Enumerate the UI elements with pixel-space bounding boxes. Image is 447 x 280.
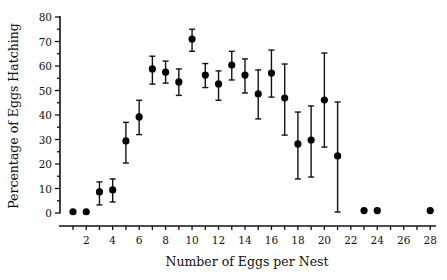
data-point xyxy=(321,96,328,103)
y-tick-label: 60 xyxy=(39,60,52,72)
x-tick-label: 2 xyxy=(83,234,90,246)
y-tick-label: 30 xyxy=(39,134,52,146)
y-tick-label: 0 xyxy=(45,207,52,219)
x-tick-label: 6 xyxy=(136,234,143,246)
y-tick-label: 20 xyxy=(39,158,52,170)
x-tick-label: 4 xyxy=(109,234,116,246)
data-point xyxy=(175,78,182,85)
data-point xyxy=(202,71,209,78)
chart: 01020304050607080 2468101214161820222426… xyxy=(0,0,447,280)
data-point xyxy=(374,207,381,214)
data-point xyxy=(215,80,222,87)
data-points xyxy=(69,35,433,215)
x-tick-label: 28 xyxy=(424,234,437,246)
data-point xyxy=(228,61,235,68)
data-point xyxy=(162,69,169,76)
data-point xyxy=(69,208,76,215)
axes xyxy=(59,16,436,226)
data-point xyxy=(83,208,90,215)
data-point xyxy=(136,113,143,120)
data-point xyxy=(255,90,262,97)
y-tick-label: 50 xyxy=(39,85,52,97)
x-axis-title: Number of Eggs per Nest xyxy=(166,254,329,269)
x-tick-label: 8 xyxy=(162,234,169,246)
y-tick-label: 40 xyxy=(39,109,52,121)
x-tick-label: 26 xyxy=(397,234,411,246)
x-tick-label: 10 xyxy=(185,234,198,246)
data-point xyxy=(308,136,315,143)
data-point xyxy=(109,186,116,193)
x-tick-label: 12 xyxy=(212,234,225,246)
x-ticks: 246810121416182022242628 xyxy=(73,226,437,246)
y-axis-title: Percentage of Eggs Hatching xyxy=(6,23,21,209)
y-tick-label: 80 xyxy=(39,11,52,23)
x-tick-label: 24 xyxy=(371,234,385,246)
x-tick-label: 20 xyxy=(318,234,331,246)
data-point xyxy=(294,140,301,147)
data-point xyxy=(281,94,288,101)
data-point xyxy=(96,188,103,195)
x-tick-label: 16 xyxy=(265,234,279,246)
y-tick-label: 10 xyxy=(39,183,52,195)
x-tick-label: 18 xyxy=(291,234,304,246)
x-tick-label: 22 xyxy=(344,234,357,246)
data-point xyxy=(188,35,195,42)
y-ticks: 01020304050607080 xyxy=(39,11,60,219)
data-point xyxy=(149,65,156,72)
data-point xyxy=(122,137,129,144)
y-tick-label: 70 xyxy=(39,36,52,48)
data-point xyxy=(360,207,367,214)
data-point xyxy=(334,152,341,159)
data-point xyxy=(241,71,248,78)
data-point xyxy=(427,207,434,214)
x-tick-label: 14 xyxy=(238,234,252,246)
error-bars xyxy=(96,29,340,212)
data-point xyxy=(268,70,275,77)
